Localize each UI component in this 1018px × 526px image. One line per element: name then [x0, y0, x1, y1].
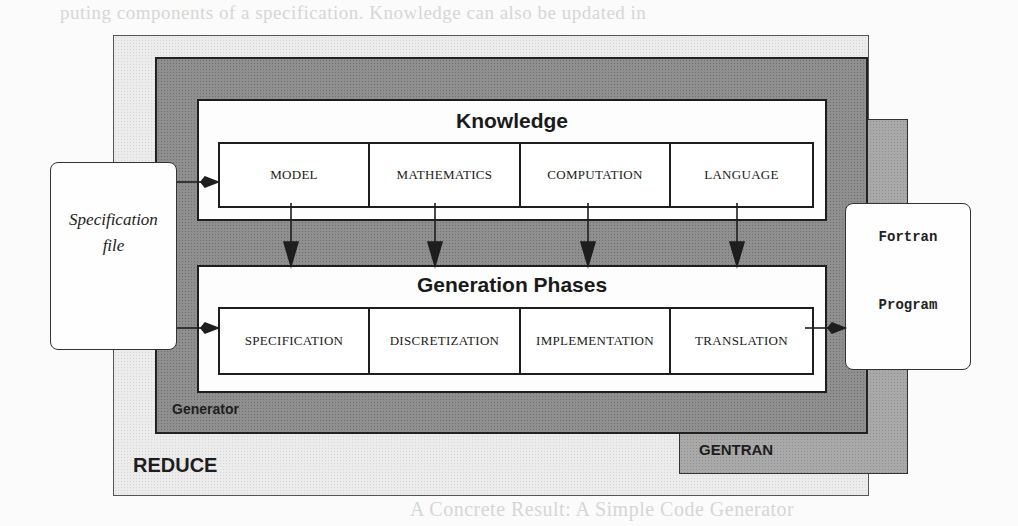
arrow-down-icon — [428, 242, 442, 266]
connector-arrows — [0, 0, 1018, 526]
arrowhead-icon — [201, 177, 218, 187]
arrowhead-icon — [828, 323, 845, 333]
gentran-label: GENTRAN — [699, 441, 773, 458]
arrow-down-icon — [284, 242, 298, 266]
arrow-down-icon — [581, 242, 595, 266]
arrow-down-icon — [730, 242, 744, 266]
generator-label: Generator — [172, 401, 239, 417]
reduce-label: REDUCE — [133, 454, 217, 477]
arrowhead-icon — [201, 323, 218, 333]
